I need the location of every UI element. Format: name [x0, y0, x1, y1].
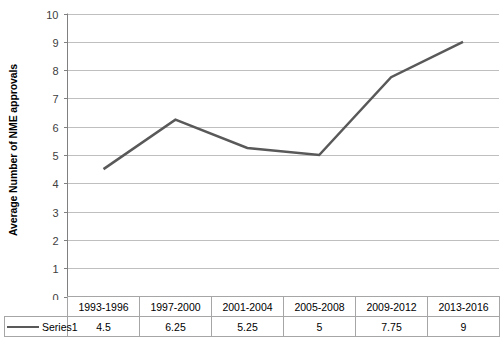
- line-chart: Average Number of NME approvals 10987654…: [0, 0, 503, 345]
- table-value-cell: 5.25: [212, 317, 284, 337]
- legend-entry-series1: Series1: [5, 317, 68, 337]
- table-corner-cell: [5, 297, 68, 317]
- plot-area: 109876543210: [0, 0, 503, 300]
- y-axis-tick-label: 7: [52, 93, 58, 105]
- table-value-cell: 4.5: [68, 317, 140, 337]
- table-value-cell: 5: [284, 317, 356, 337]
- y-axis-tick-label: 5: [52, 150, 58, 162]
- table-header-cell: 2005-2008: [284, 297, 356, 317]
- table-value-cell: 7.75: [356, 317, 428, 337]
- table-header-cell: 2013-2016: [428, 297, 500, 317]
- y-axis-tick-label: 6: [52, 122, 58, 134]
- table-value-cell: 6.25: [140, 317, 212, 337]
- legend-label: Series1: [42, 321, 78, 333]
- table-header-cell: 2009-2012: [356, 297, 428, 317]
- table-row-header: 1993-1996 1997-2000 2001-2004 2005-2008 …: [5, 297, 500, 317]
- y-axis-tick-label: 8: [52, 65, 58, 77]
- y-axis-tick-label: 2: [52, 235, 58, 247]
- y-axis-tick-label: 3: [52, 207, 58, 219]
- table-value-cell: 9: [428, 317, 500, 337]
- table-header-cell: 1997-2000: [140, 297, 212, 317]
- y-axis-tick-label: 4: [52, 178, 58, 190]
- series-line-series1: [104, 42, 464, 169]
- y-axis-tick-label: 1: [52, 263, 58, 275]
- y-axis-tick-label: 9: [52, 37, 58, 49]
- y-axis-tick-label: 10: [46, 9, 58, 21]
- table-row-series1: Series1 4.5 6.25 5.25 5 7.75 9: [5, 317, 500, 337]
- table-header-cell: 2001-2004: [212, 297, 284, 317]
- legend-line-swatch-icon: [7, 326, 39, 328]
- y-axis-tick-labels: 109876543210: [46, 9, 58, 301]
- table-header-cell: 1993-1996: [68, 297, 140, 317]
- chart-data-table: 1993-1996 1997-2000 2001-2004 2005-2008 …: [4, 296, 500, 337]
- y-axis-ticks: [64, 15, 68, 298]
